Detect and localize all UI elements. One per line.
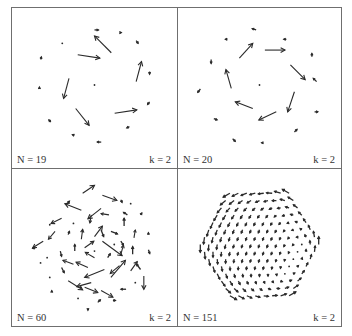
- arrow: [223, 193, 230, 197]
- arrow-head: [147, 233, 149, 235]
- arrow: [204, 252, 206, 259]
- arrow-head: [224, 246, 226, 248]
- arrow: [275, 245, 277, 248]
- arrow: [199, 245, 202, 253]
- arrow: [68, 231, 70, 234]
- arrow: [210, 59, 212, 63]
- arrow-head: [40, 57, 42, 59]
- arrow-head: [220, 254, 222, 256]
- arrow: [284, 259, 286, 261]
- arrow-head: [280, 266, 282, 268]
- arrow-shaft: [239, 43, 252, 58]
- arrow: [315, 111, 318, 113]
- arrow: [256, 201, 260, 203]
- arrow: [113, 244, 115, 246]
- arrow-head: [274, 191, 276, 193]
- arrow: [296, 236, 298, 238]
- k-label: k = 2: [313, 154, 335, 165]
- arrow: [46, 257, 48, 259]
- arrow: [268, 288, 271, 290]
- arrow: [40, 57, 42, 60]
- arrow: [250, 274, 252, 277]
- arrow: [250, 259, 252, 262]
- arrow: [258, 259, 260, 262]
- arrow: [293, 285, 298, 288]
- arrow-head: [264, 200, 266, 202]
- arrow: [123, 212, 127, 215]
- arrow-head: [199, 250, 202, 252]
- arrow: [238, 201, 242, 204]
- arrow: [313, 78, 316, 81]
- arrow: [224, 245, 226, 249]
- arrow: [95, 29, 99, 31]
- arrow: [267, 245, 269, 248]
- arrow: [217, 208, 221, 213]
- arrow-head: [309, 241, 311, 243]
- arrow-head: [250, 275, 252, 277]
- arrow: [245, 237, 247, 240]
- arrow: [121, 245, 124, 254]
- arrow: [271, 237, 273, 240]
- arrow: [209, 259, 211, 265]
- arrow: [210, 223, 213, 229]
- arrow: [300, 228, 302, 230]
- arrow-head: [288, 251, 290, 253]
- arrow-dot: [61, 42, 63, 44]
- arrow-head: [149, 72, 151, 74]
- arrow-head: [292, 243, 294, 245]
- arrow-head: [38, 87, 40, 89]
- arrow: [247, 201, 251, 203]
- arrow-head: [233, 246, 235, 248]
- arrow: [250, 230, 252, 233]
- arrow-head: [211, 241, 213, 243]
- arrow-head: [305, 249, 307, 251]
- arrow: [63, 260, 74, 265]
- arrow: [127, 126, 130, 128]
- arrow: [254, 266, 256, 269]
- arrow: [235, 208, 238, 211]
- arrow: [94, 250, 96, 252]
- arrow: [38, 87, 40, 89]
- arrow: [253, 208, 256, 211]
- arrow: [264, 295, 269, 297]
- arrow: [206, 230, 208, 236]
- arrow: [148, 250, 150, 254]
- arrow-head: [212, 255, 214, 257]
- arrow: [275, 230, 277, 233]
- arrow-head: [262, 267, 264, 269]
- arrow: [303, 219, 306, 223]
- arrow-shaft: [95, 36, 112, 53]
- arrow: [280, 266, 282, 268]
- arrow-head: [229, 253, 231, 255]
- arrow: [108, 254, 111, 258]
- arrow: [262, 237, 264, 240]
- arrow-head: [87, 308, 89, 310]
- arrow: [254, 252, 256, 255]
- arrow: [226, 208, 230, 212]
- arrow: [249, 215, 251, 218]
- arrow-head: [74, 245, 76, 247]
- arrow-head: [220, 239, 222, 241]
- arrow: [148, 102, 150, 105]
- arrow-head: [119, 32, 121, 34]
- arrow-dot: [49, 224, 51, 226]
- arrow: [279, 222, 281, 224]
- arrow: [198, 89, 201, 92]
- arrow: [238, 281, 240, 284]
- arrow: [242, 274, 244, 277]
- arrow: [211, 237, 213, 242]
- arrow: [77, 298, 79, 300]
- arrow: [237, 237, 239, 240]
- arrow: [215, 230, 217, 235]
- arrow: [313, 231, 315, 237]
- arrow: [282, 214, 284, 216]
- arrow: [220, 201, 225, 206]
- arrow-dot: [94, 84, 96, 86]
- arrow-head: [258, 275, 260, 277]
- arrow-head: [225, 261, 227, 263]
- arrow: [289, 292, 296, 296]
- arrow-shaft: [102, 241, 122, 255]
- arrow-head: [311, 53, 313, 55]
- arrow-dot: [292, 258, 294, 260]
- arrow-dot: [73, 223, 75, 225]
